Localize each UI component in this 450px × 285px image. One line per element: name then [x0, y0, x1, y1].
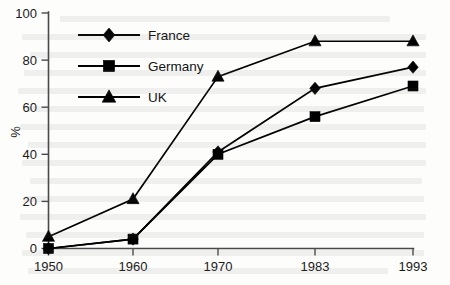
data-point-uk-1983 [309, 35, 321, 46]
legend-label-uk: UK [148, 90, 167, 105]
x-axis-ticks [49, 249, 414, 256]
data-point-germany-1950 [44, 244, 54, 254]
legend-marker-diamond-icon [103, 28, 115, 42]
y-tick-label-0: 0 [30, 241, 37, 256]
legend-label-france: France [148, 28, 190, 43]
x-tick-label-1950: 1950 [34, 259, 63, 274]
series-lines-group [49, 41, 414, 248]
line-chart: 020406080100 % 19501960197019831993 Fran… [0, 0, 450, 285]
chart-container: 020406080100 % 19501960197019831993 Fran… [0, 0, 450, 285]
data-point-france-1993 [408, 61, 419, 73]
series-markers-group [42, 35, 419, 255]
x-tick-label-1960: 1960 [119, 259, 148, 274]
y-tick-label-40: 40 [23, 147, 37, 162]
legend-item-france: France [78, 28, 190, 43]
y-tick-label-20: 20 [23, 194, 37, 209]
data-point-germany-1970 [213, 149, 223, 159]
y-tick-label-100: 100 [15, 6, 37, 21]
x-axis-group: 19501960197019831993 [34, 249, 427, 275]
x-tick-label-1970: 1970 [204, 259, 233, 274]
data-point-germany-1960 [128, 234, 138, 244]
y-tick-label-60: 60 [23, 100, 37, 115]
legend-marker-triangle-icon [102, 90, 116, 102]
y-axis-label: % [8, 126, 23, 138]
data-point-uk-1950 [42, 230, 54, 241]
x-tick-label-1993: 1993 [399, 259, 428, 274]
legend-label-germany: Germany [148, 59, 204, 74]
series-line-france [49, 67, 414, 248]
data-point-france-1983 [310, 82, 321, 94]
y-axis-ticks [42, 13, 49, 249]
legend-item-uk: UK [78, 90, 167, 105]
data-point-uk-1993 [407, 35, 419, 46]
y-tick-label-80: 80 [23, 53, 37, 68]
y-axis-group: 020406080100 % [8, 6, 49, 257]
series-line-germany [49, 86, 414, 248]
legend: FranceGermanyUK [78, 28, 204, 105]
x-tick-label-1983: 1983 [301, 259, 330, 274]
legend-item-germany: Germany [78, 59, 204, 74]
x-axis-tick-labels: 19501960197019831993 [34, 259, 427, 274]
data-point-germany-1993 [408, 81, 418, 91]
data-point-germany-1983 [310, 112, 320, 122]
legend-marker-square-icon [103, 60, 114, 71]
